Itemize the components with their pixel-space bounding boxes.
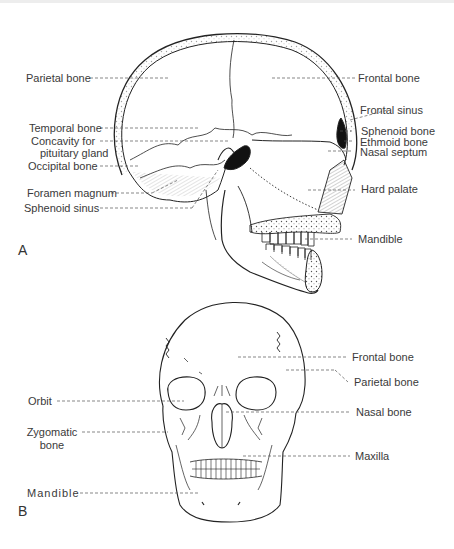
- label-foramen-magnum: Foramen magnum: [27, 187, 117, 199]
- label-occipital-bone: Occipital bone: [28, 160, 98, 172]
- panel-letter-a: A: [18, 242, 27, 258]
- label-hard-palate: Hard palate: [361, 183, 418, 195]
- label-orbit: Orbit: [28, 395, 52, 407]
- label-temporal-bone: Temporal bone: [29, 122, 102, 134]
- label-sphenoid-sinus: Sphenoid sinus: [24, 202, 99, 214]
- label-concavity-line1: Concavity for: [31, 135, 95, 147]
- label-parietal-bone-a: Parietal bone: [26, 72, 91, 84]
- label-parietal-bone-b: Parietal bone: [354, 376, 419, 388]
- label-nasal-bone: Nasal bone: [356, 406, 412, 418]
- panel-b-leader-lines: [57, 357, 350, 493]
- label-frontal-sinus: Frontal sinus: [360, 104, 423, 116]
- label-zygomatic-line2: bone: [24, 439, 80, 451]
- sagittal-skull: [114, 34, 356, 294]
- label-zygomatic-line1: Zygomatic: [24, 426, 80, 438]
- label-mandible-b: Mandible: [27, 487, 80, 499]
- label-maxilla: Maxilla: [355, 450, 389, 462]
- panel-letter-b: B: [18, 503, 27, 519]
- label-frontal-bone-a: Frontal bone: [358, 72, 420, 84]
- label-mandible-a: Mandible: [358, 233, 403, 245]
- label-concavity-line2: pituitary gland: [40, 147, 109, 159]
- label-frontal-bone-b: Frontal bone: [352, 351, 414, 363]
- label-nasal-septum: Nasal septum: [360, 146, 427, 158]
